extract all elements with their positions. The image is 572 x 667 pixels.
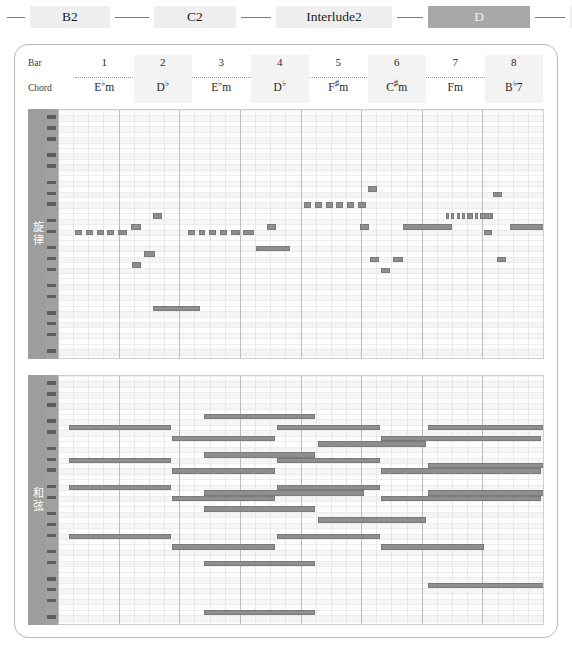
piano-black-key[interactable] [47,458,56,461]
note-block[interactable] [304,202,311,207]
piano-black-key[interactable] [47,219,56,222]
piano-black-key[interactable] [47,534,56,537]
note-block[interactable] [370,257,379,262]
note-block[interactable] [497,257,506,262]
piano-keyboard-chords[interactable] [46,375,58,625]
piano-black-key[interactable] [47,115,56,118]
piano-black-key[interactable] [47,257,56,260]
piano-black-key[interactable] [47,599,56,602]
piano-black-key[interactable] [47,430,56,433]
note-block[interactable] [368,186,377,191]
note-block[interactable] [107,230,114,235]
note-block[interactable] [277,425,380,430]
piano-black-key[interactable] [47,126,56,129]
piano-keyboard-melody[interactable] [46,109,58,359]
note-block[interactable] [144,251,155,256]
note-block[interactable] [484,230,492,235]
note-block[interactable] [172,436,275,441]
note-block[interactable] [451,213,454,218]
nav-section-interlude2[interactable]: Interlude2 [276,6,392,28]
piano-roll-chords[interactable] [58,375,544,625]
note-block[interactable] [153,306,200,311]
note-block[interactable] [358,202,367,207]
note-block[interactable] [381,544,484,549]
piano-black-key[interactable] [47,268,56,271]
bar-column-5[interactable]: 5F♯m [309,55,368,103]
note-block[interactable] [428,425,544,430]
piano-black-key[interactable] [47,284,56,287]
note-block[interactable] [199,230,206,235]
piano-black-key[interactable] [47,523,56,526]
note-block[interactable] [204,610,316,615]
piano-black-key[interactable] [47,381,56,384]
note-block[interactable] [446,213,449,218]
piano-black-key[interactable] [47,447,56,450]
piano-black-key[interactable] [47,392,56,395]
note-block[interactable] [360,224,369,229]
piano-black-key[interactable] [47,295,56,298]
note-block[interactable] [393,257,404,262]
piano-black-key[interactable] [47,181,56,184]
note-block[interactable] [188,230,195,235]
note-block[interactable] [510,224,544,229]
note-block[interactable] [318,517,426,522]
bar-column-3[interactable]: 3E♭m [192,55,251,103]
nav-section-b2[interactable]: B2 [30,6,110,28]
note-block[interactable] [428,490,544,495]
note-block[interactable] [480,213,493,218]
bar-column-8[interactable]: 8B♭7 [485,55,544,103]
piano-black-key[interactable] [47,153,56,156]
note-block[interactable] [277,458,380,463]
piano-black-key[interactable] [47,202,56,205]
piano-black-key[interactable] [47,403,56,406]
piano-black-key[interactable] [47,164,56,167]
note-block[interactable] [493,192,502,197]
note-block[interactable] [69,534,172,539]
note-block[interactable] [231,230,240,235]
note-block[interactable] [457,213,460,218]
note-block[interactable] [172,544,275,549]
piano-black-key[interactable] [47,550,56,553]
note-block[interactable] [336,202,343,207]
piano-black-key[interactable] [47,322,56,325]
note-block[interactable] [69,485,172,490]
piano-black-key[interactable] [47,349,56,352]
note-block[interactable] [209,230,216,235]
piano-black-key[interactable] [47,192,56,195]
note-block[interactable] [132,262,141,267]
nav-section-d[interactable]: D [428,6,530,28]
piano-black-key[interactable] [47,468,56,471]
note-block[interactable] [467,213,473,218]
piano-black-key[interactable] [47,246,56,249]
note-block[interactable] [381,496,541,501]
note-block[interactable] [75,230,82,235]
piano-black-key[interactable] [47,561,56,564]
piano-black-key[interactable] [47,333,56,336]
note-block[interactable] [428,583,544,588]
note-block[interactable] [428,463,544,468]
bar-column-4[interactable]: 4D♭ [251,55,310,103]
note-block[interactable] [381,268,391,273]
note-block[interactable] [256,246,290,251]
note-block[interactable] [172,468,275,473]
note-block[interactable] [204,506,316,511]
note-block[interactable] [462,213,465,218]
piano-black-key[interactable] [47,577,56,580]
note-block[interactable] [204,561,316,566]
note-block[interactable] [172,496,275,501]
note-block[interactable] [204,414,316,419]
note-block[interactable] [204,490,364,495]
bar-column-7[interactable]: 7Fm [426,55,485,103]
piano-black-key[interactable] [47,512,56,515]
bar-column-6[interactable]: 6C♯m [368,55,427,103]
note-block[interactable] [267,224,277,229]
note-block[interactable] [86,230,93,235]
piano-black-key[interactable] [47,137,56,140]
piano-black-key[interactable] [47,496,56,499]
note-block[interactable] [69,425,172,430]
note-block[interactable] [403,224,452,229]
piano-black-key[interactable] [47,615,56,618]
note-block[interactable] [347,202,354,207]
bar-column-2[interactable]: 2D♭ [134,55,193,103]
piano-black-key[interactable] [47,230,56,233]
